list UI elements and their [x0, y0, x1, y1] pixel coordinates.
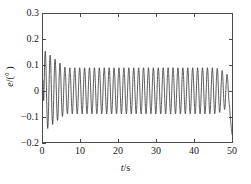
x-tick-top-10	[80, 13, 81, 17]
y-tick-0.3	[42, 13, 46, 14]
y-tick-0.1	[42, 65, 46, 66]
x-axis-title: t/s	[0, 162, 251, 173]
chart-figure: 0.3 0.2 0.1 0 −0.1 −0.2 0 10 20 30 40 50…	[0, 0, 251, 184]
x-tick-label-10: 10	[75, 146, 85, 156]
x-tick-label-0: 0	[40, 146, 45, 156]
x-tick-40	[194, 139, 195, 143]
error-signal-curve	[43, 14, 232, 142]
y-tick-neg0.1	[42, 117, 46, 118]
y-tick-0.2	[42, 39, 46, 40]
y-tick-right-0.1	[229, 65, 233, 66]
y-axis-title-var: e	[4, 82, 15, 86]
y-tick-label-neg0.2: −0.2	[21, 138, 39, 148]
x-tick-top-30	[156, 13, 157, 17]
x-tick-50	[232, 139, 233, 143]
y-tick-label-0.3: 0.3	[27, 8, 40, 18]
x-tick-label-20: 20	[113, 146, 123, 156]
y-tick-neg0.2	[42, 143, 46, 144]
plot-area	[42, 13, 233, 143]
y-tick-label-0: 0	[34, 86, 39, 96]
x-axis-title-unit: /s	[124, 162, 131, 173]
y-axis-title: e/(° )	[4, 47, 15, 107]
x-tick-label-40: 40	[189, 146, 199, 156]
y-tick-right-0	[229, 91, 233, 92]
y-tick-0	[42, 91, 46, 92]
y-tick-label-0.2: 0.2	[27, 34, 40, 44]
y-tick-right-neg0.1	[229, 117, 233, 118]
y-tick-label-neg0.1: −0.1	[21, 112, 39, 122]
x-tick-20	[118, 139, 119, 143]
y-tick-right-0.2	[229, 39, 233, 40]
x-tick-0	[42, 139, 43, 143]
y-axis-title-unit: /(° )	[4, 66, 15, 82]
x-tick-30	[156, 139, 157, 143]
x-tick-label-30: 30	[151, 146, 161, 156]
x-tick-10	[80, 139, 81, 143]
x-tick-top-20	[118, 13, 119, 17]
y-tick-label-0.1: 0.1	[27, 60, 40, 70]
x-tick-label-50: 50	[227, 146, 237, 156]
x-tick-top-40	[194, 13, 195, 17]
